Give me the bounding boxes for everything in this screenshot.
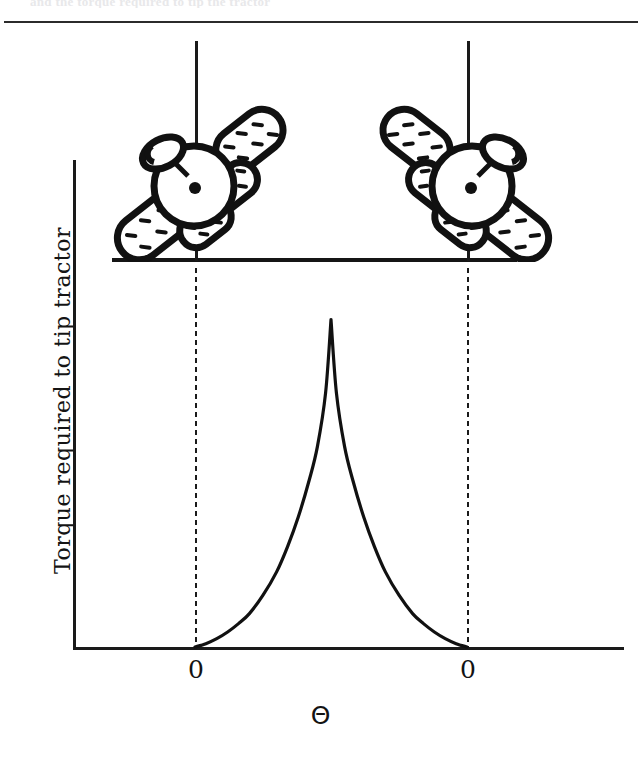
x-tick-label-left: 0 <box>176 655 216 684</box>
y-axis-label: Torque required to tip tractor <box>50 191 75 611</box>
top-horizontal-rule <box>4 21 638 23</box>
x-axis-label: Θ <box>0 701 641 730</box>
x-axis-line <box>73 647 624 650</box>
x-tick-label-right: 0 <box>448 655 488 684</box>
tractor-tipped-right-icon <box>372 76 558 262</box>
scan-top-clipped-text: and the torque required to tip the tract… <box>30 0 610 8</box>
figure-root: and the torque required to tip the tract… <box>0 0 641 757</box>
tractor-tipped-left-icon <box>108 76 294 262</box>
tipping-angle-dashline-right <box>467 268 469 649</box>
y-axis-line <box>73 160 76 650</box>
tipping-angle-dashline-left <box>195 268 197 649</box>
